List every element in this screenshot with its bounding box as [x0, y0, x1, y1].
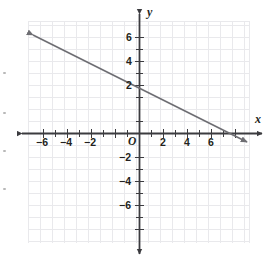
x-tick-label-6: 6 — [208, 137, 214, 148]
scan-speck — [3, 188, 6, 190]
x-axis-label: x — [255, 113, 261, 125]
y-tick-label-6: 6 — [126, 32, 132, 43]
scan-speck — [3, 72, 6, 74]
x-tick-label-2: 2 — [160, 137, 166, 148]
y-tick-label-neg4: −4 — [119, 176, 131, 187]
scan-speck — [3, 150, 6, 152]
y-tick-label-2: 2 — [126, 80, 132, 91]
x-tick-label-neg6: −6 — [36, 137, 48, 148]
y-tick-label-4: 4 — [126, 56, 132, 67]
coordinate-plane-figure: y x O −6 −4 −2 2 4 6 6 4 2 −2 −4 −6 — [0, 0, 276, 261]
x-tick-label-neg2: −2 — [84, 137, 96, 148]
y-axis-label: y — [147, 6, 152, 18]
y-tick-label-neg2: −2 — [119, 152, 131, 163]
x-tick-label-neg4: −4 — [60, 137, 72, 148]
origin-label: O — [128, 136, 136, 148]
x-tick-label-4: 4 — [184, 137, 190, 148]
coordinate-plane-canvas — [0, 0, 276, 261]
scan-speck — [3, 112, 6, 114]
y-tick-label-neg6: −6 — [119, 200, 131, 211]
